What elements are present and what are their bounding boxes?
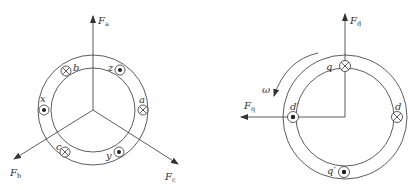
conductor-z-dot-icon	[115, 65, 125, 75]
conductor-q-cross-icon	[340, 61, 351, 72]
fd-label: Fd	[349, 15, 361, 28]
conductor-d-cross-icon	[392, 112, 403, 123]
conductor-q-prime-dot-icon	[339, 167, 350, 178]
conductor-d-prime-dot-icon	[288, 112, 299, 123]
three-phase-diagram: Fa Fb Fc b z x a	[9, 15, 178, 184]
conductor-z-label: z	[107, 62, 114, 73]
conductor-b-cross-icon	[61, 66, 71, 76]
conductor-y-dot-icon	[114, 147, 124, 157]
fb-arrow	[14, 110, 93, 159]
conductor-c-label: c	[56, 141, 62, 152]
conductor-q-prime-label: q′	[327, 165, 336, 176]
dq-diagram: Fd Fq ω q d′ d q′	[241, 14, 407, 179]
conductor-d-label: d	[395, 101, 401, 112]
fc-label: Fc	[164, 171, 176, 184]
rotation-arrow-icon	[274, 53, 318, 96]
conductor-a-cross-icon	[138, 105, 148, 115]
fb-label: Fb	[9, 167, 21, 180]
conductor-q-label: q	[326, 61, 332, 72]
fq-label: Fq	[243, 100, 255, 113]
conductor-x-dot-icon	[39, 105, 49, 115]
diagram-canvas: Fa Fb Fc b z x a	[0, 0, 412, 190]
omega-label: ω	[262, 84, 270, 95]
conductor-y-label: y	[105, 150, 112, 161]
conductor-d-prime-label: d′	[290, 101, 299, 112]
fa-label: Fa	[97, 15, 109, 28]
conductor-a-label: a	[139, 94, 145, 105]
conductor-x-label: x	[40, 93, 46, 104]
conductor-b-label: b	[73, 62, 79, 73]
